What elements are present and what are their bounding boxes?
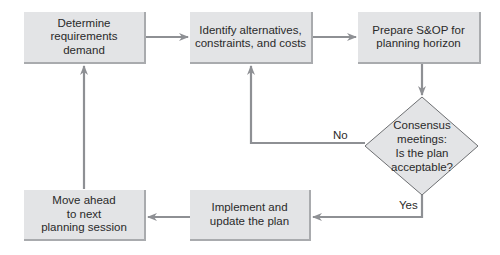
node-prepare-text: Prepare S&OP for planning horizon [372,24,464,51]
node-implement-text: Implement and update the plan [210,201,289,228]
node-consensus-text: Consensus meetings: Is the plan acceptab… [372,118,472,174]
node-identify-text: Identify alternatives, constraints, and … [195,24,306,51]
node-determine-requirements: Determine requirements demand [24,12,146,64]
edge-label-no: No [333,129,348,141]
node-determine-text: Determine requirements demand [50,17,117,58]
node-identify-alternatives: Identify alternatives, constraints, and … [190,12,313,64]
edge-label-yes: Yes [399,199,418,211]
node-move-ahead: Move ahead to next planning session [24,190,146,241]
node-move-text: Move ahead to next planning session [41,194,127,235]
node-prepare-sop: Prepare S&OP for planning horizon [358,12,481,64]
arrow-no-to-identify [251,66,365,143]
node-implement-update: Implement and update the plan [190,190,311,241]
